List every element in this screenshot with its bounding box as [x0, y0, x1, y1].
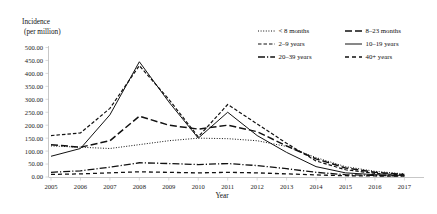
x-axis-title: Year [215, 192, 229, 200]
x-tick-label: 2014 [309, 183, 323, 190]
x-tick-label: 2006 [74, 183, 88, 190]
x-tick-label: 2010 [192, 183, 206, 190]
x-tick-label: 2016 [368, 183, 382, 190]
x-axis-ticks: 2005200620072008200920102011201220132014… [44, 178, 411, 191]
x-tick-label: 2015 [339, 183, 353, 190]
legend-label-4: 20–39 years [279, 53, 312, 60]
x-tick-label: 2012 [251, 183, 264, 190]
legend-label-3: 10–19 years [366, 40, 399, 47]
legend-label-5: 40+ years [366, 53, 393, 60]
series-line-5 [51, 172, 404, 176]
series-line-2 [51, 66, 404, 175]
series-line-3 [51, 62, 404, 176]
y-tick-label: 200.00 [25, 122, 44, 129]
y-tick-label: 400.00 [25, 70, 44, 77]
incidence-line-chart: Incidence (per million) 0.0050.00100.001… [0, 0, 437, 214]
x-tick-label: 2005 [44, 183, 58, 190]
x-tick-label: 2009 [162, 183, 176, 190]
y-tick-label: 150.00 [25, 135, 44, 142]
x-tick-label: 2011 [221, 183, 234, 190]
y-tick-label: 250.00 [25, 109, 44, 116]
chart-legend: < 8 months8–23 months2–9 years10–19 year… [258, 27, 401, 60]
y-tick-label: 450.00 [25, 57, 44, 64]
legend-label-2: 2–9 years [279, 40, 306, 47]
legend-label-1: 8–23 months [366, 27, 402, 34]
legend-label-0: < 8 months [279, 27, 310, 34]
y-axis-title-line2: (per million) [24, 28, 61, 36]
x-tick-label: 2017 [398, 183, 412, 190]
series-line-1 [51, 116, 404, 174]
y-tick-label: 100.00 [25, 148, 44, 155]
x-tick-label: 2013 [280, 183, 294, 190]
y-tick-label: 500.00 [25, 44, 44, 51]
x-tick-label: 2008 [133, 183, 147, 190]
x-tick-label: 2007 [103, 183, 117, 190]
y-tick-label: 350.00 [25, 83, 44, 90]
y-tick-label: 50.00 [28, 160, 44, 167]
y-tick-label: 300.00 [25, 96, 44, 103]
y-axis-title-line1: Incidence [22, 18, 50, 26]
y-axis-ticks: 0.0050.00100.00150.00200.00250.00300.003… [25, 44, 49, 181]
y-axis-title: Incidence (per million) [22, 18, 61, 36]
series-group [51, 62, 404, 176]
y-tick-label: 0.00 [31, 173, 43, 180]
